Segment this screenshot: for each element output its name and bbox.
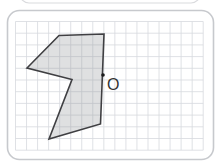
geometry-canvas: O (0, 0, 220, 164)
center-point-dot (101, 73, 105, 77)
center-point-label: O (107, 76, 119, 93)
geometry-figure: O (0, 0, 220, 164)
